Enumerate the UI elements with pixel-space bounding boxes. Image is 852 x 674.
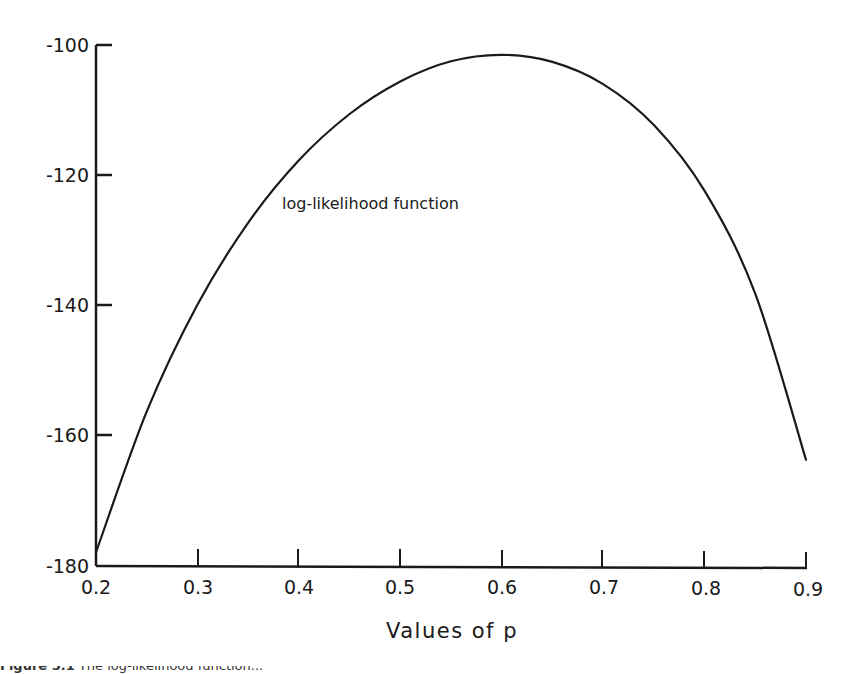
log-likelihood-curve: [96, 55, 806, 553]
x-tick-label: 0.9: [793, 578, 823, 600]
y-ticks: [96, 45, 112, 435]
y-tick-label: -180: [46, 555, 89, 577]
x-tick-label: 0.4: [284, 576, 314, 598]
y-tick-label: -140: [46, 294, 89, 316]
curve-annotation: log-likelihood function: [282, 194, 459, 213]
x-tick-label: 0.5: [385, 576, 415, 598]
line-chart: -100 -120 -140 -160 -180 0.2 0.3 0.4 0.5…: [0, 0, 852, 674]
y-tick-label: -160: [46, 424, 89, 446]
x-tick-label: 0.6: [487, 576, 517, 598]
x-tick-label: 0.7: [589, 576, 619, 598]
x-tick-label: 0.3: [183, 576, 213, 598]
x-tick-labels: 0.2 0.3 0.4 0.5 0.6 0.7 0.8 0.9: [81, 576, 823, 600]
x-axis-line: [96, 566, 807, 568]
y-tick-label: -100: [46, 34, 89, 56]
x-axis-title: Values of p: [386, 619, 518, 643]
x-tick-label: 0.2: [81, 576, 111, 598]
y-tick-label: -120: [46, 164, 89, 186]
x-tick-label: 0.8: [691, 577, 721, 599]
y-tick-labels: -100 -120 -140 -160 -180: [46, 34, 89, 577]
x-ticks: [198, 549, 806, 568]
